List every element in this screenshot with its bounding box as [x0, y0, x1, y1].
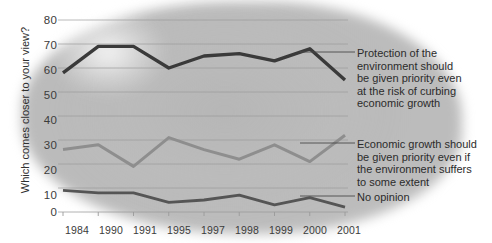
annotation-economy-line-1: Economic growth should [357, 138, 492, 151]
series-environment [63, 46, 345, 80]
annotation-no-opinion-line-1: No opinion [357, 191, 489, 204]
annotation-environment-line-2: environment should [357, 60, 489, 73]
annotation-no-opinion: No opinion [357, 191, 489, 204]
series-no-opinion [63, 190, 345, 207]
annotation-environment-line-3: be given priority even [357, 72, 489, 85]
annotation-environment-line-4: at the risk of curbing [357, 85, 489, 98]
annotation-environment-line-5: economic growth [357, 97, 489, 110]
series-layer [63, 46, 345, 207]
annotation-economy: Economic growth should be given priority… [357, 138, 492, 188]
annotation-economy-line-2: be given priority even if [357, 151, 492, 164]
annotation-environment-line-1: Protection of the [357, 47, 489, 60]
annotation-leader-lines [300, 52, 355, 196]
annotation-economy-line-3: the environment suffers [357, 163, 492, 176]
chart-figure: Which comes closer to your view? 80 70 6… [0, 0, 492, 243]
annotation-environment: Protection of the environment should be … [357, 47, 489, 110]
plot-canvas [0, 0, 492, 243]
annotation-economy-line-4: to some extent [357, 176, 492, 189]
